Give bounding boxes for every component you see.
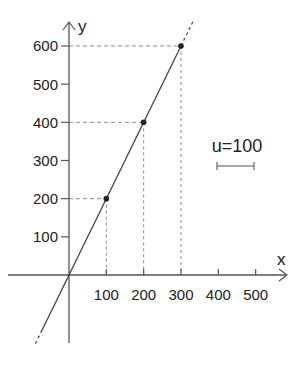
- y-axis-label: y: [78, 17, 87, 36]
- x-axis-label: x: [277, 250, 286, 269]
- x-tick-label: 100: [94, 286, 119, 303]
- y-tick-label: 400: [33, 114, 58, 131]
- x-tick-label: 400: [206, 286, 231, 303]
- y-tick-label: 200: [33, 190, 58, 207]
- chart: xy100200300400500100200300400500600u=100: [0, 0, 303, 370]
- data-point: [141, 120, 147, 126]
- series-line-extension-upper: [181, 22, 193, 46]
- series-line-extension-lower: [35, 332, 41, 343]
- unit-label: u=100: [212, 136, 263, 156]
- y-tick-label: 500: [33, 76, 58, 93]
- x-tick-label: 200: [131, 286, 156, 303]
- x-tick-label: 500: [243, 286, 268, 303]
- data-point: [178, 43, 184, 49]
- plot: xy100200300400500100200300400500600u=100: [8, 17, 287, 344]
- y-tick-label: 100: [33, 228, 58, 245]
- data-point: [104, 196, 110, 202]
- x-tick-label: 300: [168, 286, 193, 303]
- y-tick-label: 300: [33, 152, 58, 169]
- y-tick-label: 600: [33, 37, 58, 54]
